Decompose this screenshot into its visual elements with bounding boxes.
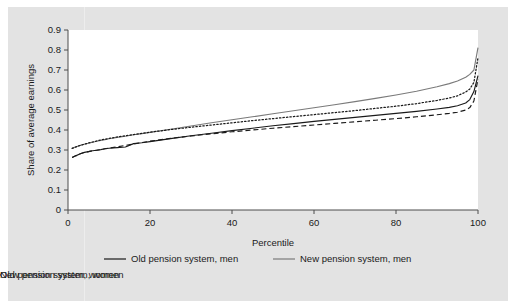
y-axis-title: Share of average earnings [25,64,36,176]
chart-legend: Old pension system, menNew pension syste… [0,253,411,280]
legend-label: New pension system, women [0,269,124,280]
plot-panel [68,30,478,210]
legend-item: Old pension system, men [104,253,238,264]
legend-item: New pension system, women [0,269,124,280]
y-tick-label: 0.5 [48,104,61,115]
x-tick-label: 60 [309,217,320,228]
y-tick-label: 0.1 [48,184,61,195]
legend-label: New pension system, men [300,253,411,264]
x-tick-label: 80 [391,217,402,228]
line-chart: 00.10.20.30.40.50.60.70.80.9 02040608010… [0,0,516,308]
y-tick-label: 0.6 [48,84,61,95]
x-tick-label: 100 [470,217,486,228]
legend-label: Old pension system, men [131,253,238,264]
x-axis: 020406080100 [65,210,486,228]
x-tick-label: 0 [65,217,70,228]
y-tick-label: 0.2 [48,164,61,175]
y-tick-label: 0.7 [48,64,61,75]
legend-item: New pension system, men [273,253,411,264]
y-axis: 00.10.20.30.40.50.60.70.80.9 [48,24,68,215]
chart-container: 00.10.20.30.40.50.60.70.80.9 02040608010… [0,0,516,308]
x-tick-label: 40 [227,217,238,228]
x-tick-label: 20 [145,217,156,228]
y-tick-label: 0.4 [48,124,61,135]
y-tick-label: 0.8 [48,44,61,55]
y-tick-label: 0.9 [48,24,61,35]
y-tick-label: 0 [56,204,61,215]
figure-canvas: 00.10.20.30.40.50.60.70.80.9 02040608010… [0,0,516,308]
y-tick-label: 0.3 [48,144,61,155]
x-axis-title: Percentile [252,237,294,248]
